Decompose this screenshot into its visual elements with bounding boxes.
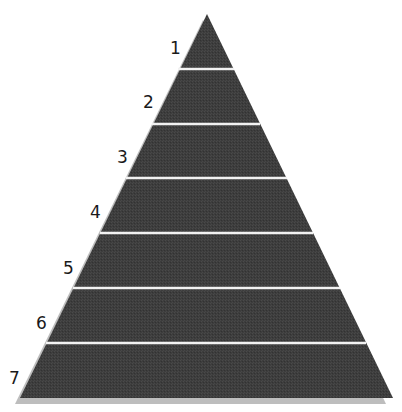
level-label-4: 4 [90,202,101,222]
level-label-1: 1 [170,38,181,58]
level-label-3: 3 [117,147,128,167]
level-label-6: 6 [36,313,47,333]
level-label-2: 2 [143,92,154,112]
pyramid-diagram: 1 2 3 4 5 6 7 [0,0,402,412]
level-label-7: 7 [9,368,20,388]
level-label-5: 5 [63,258,74,278]
pyramid-body [20,14,393,398]
